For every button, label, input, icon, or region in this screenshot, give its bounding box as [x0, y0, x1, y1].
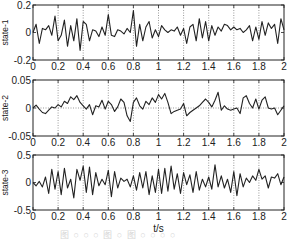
x-tick-label: 1: [156, 211, 162, 222]
x-tick-label: 1: [156, 137, 162, 148]
x-tick-label: 1.4: [202, 137, 216, 148]
y-axis-label: state-2: [0, 95, 10, 121]
x-tick-label: 0.6: [101, 61, 115, 72]
x-tick-label: 0.8: [126, 137, 140, 148]
x-tick-label: 2: [281, 137, 287, 148]
x-tick-label: 0.4: [76, 211, 90, 222]
x-tick-label: 1: [156, 61, 162, 72]
y-tick-label: -0.5: [14, 205, 32, 216]
x-tick-label: 0.2: [51, 211, 65, 222]
x-tick-label: 0.8: [126, 211, 140, 222]
subplot-state-3: 00.20.40.60.811.21.41.61.82-0.500.5state…: [0, 150, 287, 235]
y-axis-label: state-1: [0, 19, 10, 45]
x-tick-label: 1.8: [252, 61, 266, 72]
figure-caption: 图 ○ ○ ○ 图 ○ 图 ○ ○ ○ ○: [60, 228, 260, 238]
figure-canvas: 00.20.40.60.811.21.41.61.82-0.200.2state…: [0, 0, 289, 241]
y-tick-label: 0: [25, 177, 31, 188]
x-tick-label: 2: [281, 211, 287, 222]
x-tick-label: 1.2: [177, 137, 191, 148]
y-tick-label: 0.2: [17, 0, 31, 11]
x-tick-label: 1.6: [227, 211, 241, 222]
x-tick-label: 0: [30, 211, 36, 222]
y-tick-label: -0.2: [14, 55, 32, 66]
series-line-state-2: [33, 92, 284, 121]
x-tick-label: 1.6: [227, 137, 241, 148]
y-tick-label: 0: [25, 103, 31, 114]
x-tick-label: 1.2: [177, 61, 191, 72]
x-tick-label: 1.4: [202, 211, 216, 222]
x-tick-label: 0: [30, 61, 36, 72]
x-tick-label: 1.6: [227, 61, 241, 72]
x-tick-label: 1.4: [202, 61, 216, 72]
x-tick-label: 0.6: [101, 211, 115, 222]
y-tick-label: 0.5: [17, 150, 31, 161]
x-tick-label: 0.4: [76, 61, 90, 72]
subplot-state-1: 00.20.40.60.811.21.41.61.82-0.200.2state…: [0, 0, 287, 72]
y-axis-label: state-3: [0, 169, 10, 195]
x-tick-label: 0: [30, 137, 36, 148]
x-tick-label: 1.8: [252, 211, 266, 222]
x-tick-label: 0.2: [51, 137, 65, 148]
x-tick-label: 0.8: [126, 61, 140, 72]
y-tick-label: -0.05: [8, 131, 31, 142]
y-tick-label: 0: [25, 27, 31, 38]
x-tick-label: 1.2: [177, 211, 191, 222]
subplot-state-2: 00.20.40.60.811.21.41.61.82-0.0500.05sta…: [0, 75, 287, 149]
x-tick-label: 0.2: [51, 61, 65, 72]
x-tick-label: 0.4: [76, 137, 90, 148]
x-tick-label: 0.6: [101, 137, 115, 148]
y-tick-label: 0.05: [12, 75, 32, 86]
x-tick-label: 1.8: [252, 137, 266, 148]
x-tick-label: 2: [281, 61, 287, 72]
